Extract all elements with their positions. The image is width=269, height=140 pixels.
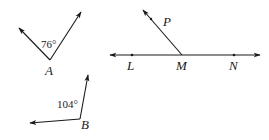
point-l [131, 54, 134, 57]
angle-b: 104° B [30, 75, 89, 132]
label-p: P [162, 14, 171, 29]
angle-b-up-ray [80, 75, 88, 119]
angle-a: 76° A [19, 12, 81, 78]
angle-a-measure: 76° [41, 38, 56, 50]
point-p [150, 18, 152, 20]
label-n: N [228, 58, 239, 73]
line-lmn-figure: L M N P [110, 10, 260, 73]
label-l: L [126, 58, 134, 73]
angle-a-right-ray [50, 12, 81, 60]
angle-b-vertex-label: B [81, 117, 89, 132]
angle-b-measure: 104° [57, 98, 78, 110]
geometry-diagram: 76° A 104° B L M N P [0, 0, 269, 140]
angle-a-vertex-label: A [44, 63, 53, 78]
label-m: M [175, 58, 188, 73]
angle-b-left-ray [30, 119, 80, 123]
point-n [233, 54, 236, 57]
